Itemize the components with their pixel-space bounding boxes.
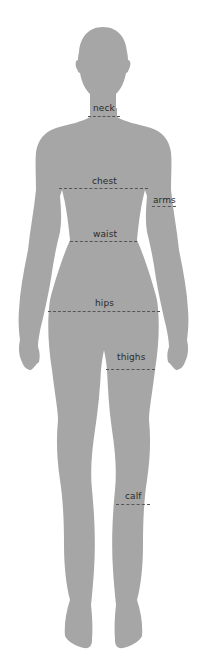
waist-label: waist	[93, 229, 117, 239]
hips-measure-line	[48, 311, 160, 312]
thighs-label: thighs	[117, 352, 145, 362]
thighs-measure-line	[106, 369, 155, 370]
calf-measure-line	[116, 504, 150, 505]
body-silhouette	[0, 0, 207, 662]
chest-label: chest	[92, 176, 117, 186]
waist-measure-line	[70, 241, 137, 242]
chest-measure-line	[59, 188, 148, 189]
arms-measure-line	[152, 206, 176, 207]
torso-shape	[19, 108, 189, 648]
hips-label: hips	[95, 298, 114, 308]
neck-label: neck	[93, 103, 115, 113]
neck-measure-line	[88, 116, 120, 117]
head-shape	[76, 27, 131, 112]
calf-label: calf	[125, 491, 142, 501]
arms-label: arms	[153, 195, 176, 205]
